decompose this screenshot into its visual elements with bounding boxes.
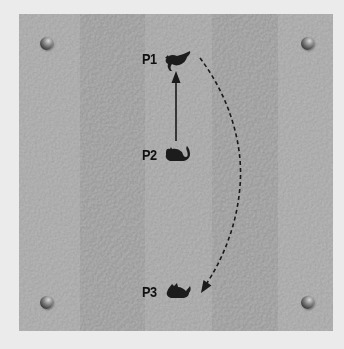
corner-sphere-bottom-left <box>40 296 53 309</box>
board-stripe-5 <box>278 14 333 331</box>
board-stripe-1 <box>19 14 80 331</box>
position-label-p3: P3 <box>142 284 157 300</box>
corner-sphere-top-right <box>301 37 314 50</box>
board-stripe-4 <box>212 14 278 331</box>
corner-sphere-bottom-right <box>301 296 314 309</box>
corner-sphere-top-left <box>40 37 53 50</box>
diagram-stage: P1 P2 P3 <box>0 0 344 349</box>
position-label-p2: P2 <box>142 147 157 163</box>
textured-board <box>19 14 333 331</box>
position-label-p1: P1 <box>142 51 157 67</box>
board-stripe-2 <box>80 14 145 331</box>
